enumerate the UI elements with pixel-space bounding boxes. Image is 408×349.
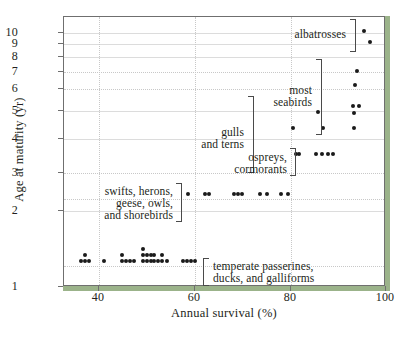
xtick-label-40: 40 <box>78 291 118 303</box>
xtick-label-60: 60 <box>174 291 214 303</box>
data-point <box>258 192 262 196</box>
annotation-swifts-line1: swifts, herons, <box>68 185 173 197</box>
bracket-albatrosses <box>350 19 356 52</box>
xtick-label-100: 100 <box>365 291 405 303</box>
y-axis-title: Age at maturity (yr) <box>12 65 27 235</box>
data-point <box>352 126 356 130</box>
gridline-y-8 <box>64 57 384 58</box>
gridline-y-9 <box>64 44 384 45</box>
xtick-mark-80 <box>290 286 291 291</box>
ytick-mark-10 <box>58 32 63 33</box>
gridline-y-7 <box>64 72 384 73</box>
xtick-label-80: 80 <box>270 291 310 303</box>
bracket-temperate <box>203 258 209 286</box>
data-point <box>141 247 145 251</box>
data-point <box>352 111 356 115</box>
xtick-mark-100 <box>385 286 386 291</box>
ytick-label-9: 9 <box>12 37 18 49</box>
gridline-y-5 <box>64 111 384 112</box>
bracket-most-seabirds <box>316 59 322 135</box>
ytick-mark-8 <box>58 56 63 57</box>
annotation-swifts-line2: geese, owls, <box>68 197 173 209</box>
data-point <box>362 29 366 33</box>
gridline-x-40 <box>99 17 100 285</box>
gridline-x-60 <box>195 17 196 285</box>
ytick-mark-5 <box>58 110 63 111</box>
data-point <box>314 152 318 156</box>
frame-accent-right <box>385 16 390 291</box>
annotation-gulls-line2: and terns <box>168 138 244 150</box>
annotation-ospreys-line2: cormorants <box>208 163 287 175</box>
x-axis-title: Annual survival (%) <box>63 306 385 321</box>
xtick-mark-40 <box>98 286 99 291</box>
ytick-mark-9 <box>58 43 63 44</box>
annotation-most-seabirds-line1: most <box>236 84 312 96</box>
data-point <box>326 152 330 156</box>
ytick-mark-1 <box>58 286 63 287</box>
bracket-swifts <box>176 183 182 222</box>
ytick-label-8: 8 <box>12 50 18 62</box>
gridline-y-6 <box>64 89 384 90</box>
ytick-mark-7 <box>58 71 63 72</box>
xtick-mark-60 <box>194 286 195 291</box>
ytick-mark-2 <box>58 210 63 211</box>
annotation-albatrosses: albatrosses <box>238 28 346 40</box>
ytick-mark-3 <box>58 172 63 173</box>
data-point <box>291 126 295 130</box>
ytick-label-1: 1 <box>12 280 18 292</box>
chart-figure: 10 9 8 7 6 5 4 3 2 1 40 60 80 100 Annual… <box>0 0 408 349</box>
bracket-ospreys-cormorants <box>290 148 296 176</box>
annotation-temperate-line1: temperate passerines, <box>213 260 373 272</box>
annotation-gulls-line1: gulls <box>168 126 244 138</box>
annotation-ospreys-line1: ospreys, <box>208 151 287 163</box>
data-point <box>207 192 211 196</box>
ytick-mark-6 <box>58 88 63 89</box>
annotation-temperate-line2: ducks, and galliforms <box>213 272 373 284</box>
ytick-mark-4 <box>58 138 63 139</box>
annotation-swifts-line3: and shorebirds <box>68 209 173 221</box>
